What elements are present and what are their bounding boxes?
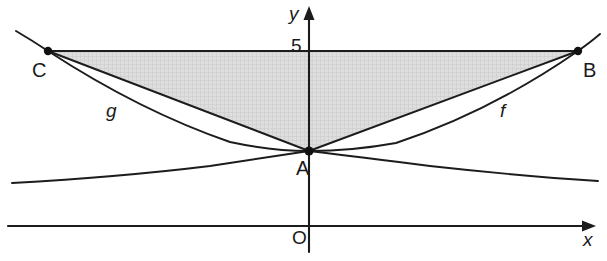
math-figure: y 5 C B g f A O x	[0, 0, 607, 261]
curve-label-g: g	[106, 101, 117, 120]
tick-label-5: 5	[291, 36, 302, 55]
point-label-a: A	[296, 158, 309, 178]
y-axis-label: y	[289, 4, 299, 23]
x-axis-label: x	[583, 230, 593, 249]
point-a-dot	[304, 146, 313, 155]
curve-h-right-branch	[309, 151, 598, 181]
origin-label: O	[292, 228, 307, 247]
figure-canvas	[0, 0, 607, 261]
curve-label-f: f	[500, 101, 505, 120]
point-label-c: C	[32, 60, 46, 80]
curve-h-left-branch	[12, 151, 309, 183]
point-c-dot	[44, 47, 52, 55]
point-b-dot	[574, 47, 582, 55]
y-axis-arrowhead	[304, 6, 315, 20]
shaded-region-triangle-cab	[48, 51, 578, 151]
point-label-b: B	[583, 60, 596, 80]
